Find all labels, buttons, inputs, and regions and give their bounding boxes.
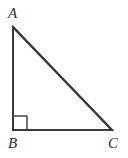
side-ac-hypotenuse (13, 27, 112, 130)
vertex-label-b: B (8, 136, 17, 151)
geometry-figure-canvas: A B C (0, 0, 128, 158)
vertex-label-a: A (8, 6, 17, 21)
right-angle-marker-icon (13, 116, 27, 130)
vertex-label-c: C (108, 136, 118, 151)
